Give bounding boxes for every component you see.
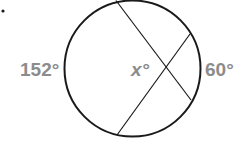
bullet-dot xyxy=(1,9,4,12)
right-arc-label: 60° xyxy=(205,59,234,80)
angle-x-label: x° xyxy=(130,59,150,80)
chord-diagram: 152° x° 60° xyxy=(0,0,241,152)
left-arc-label: 152° xyxy=(20,59,59,80)
